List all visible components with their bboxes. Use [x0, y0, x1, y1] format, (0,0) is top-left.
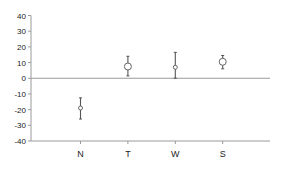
y-axis: 403020100-10-20-30-40 — [14, 12, 31, 147]
data-point-t — [124, 56, 131, 76]
y-tick-label: -20 — [14, 106, 26, 115]
x-tick-label: W — [171, 149, 180, 159]
x-tick-label: T — [125, 149, 131, 159]
y-tick-label: -40 — [14, 137, 26, 146]
data-marker — [124, 63, 131, 70]
data-point-s — [219, 56, 226, 69]
error-bar-chart: 403020100-10-20-30-40 NTWS — [0, 0, 284, 170]
y-tick-label: 0 — [22, 74, 27, 83]
data-marker — [173, 65, 177, 69]
y-tick-label: -30 — [14, 121, 26, 130]
y-tick-label: 30 — [17, 27, 26, 36]
y-tick-label: 10 — [17, 59, 26, 68]
y-tick-label: 20 — [17, 43, 26, 52]
y-tick-label: 40 — [17, 12, 26, 21]
data-marker — [219, 58, 226, 65]
data-points — [79, 52, 227, 119]
data-marker — [79, 106, 83, 110]
x-tick-label: N — [77, 149, 84, 159]
y-tick-label: -10 — [14, 90, 26, 99]
data-point-n — [79, 98, 83, 119]
x-tick-label: S — [220, 149, 226, 159]
x-axis: NTWS — [31, 141, 270, 159]
data-point-w — [173, 52, 177, 78]
